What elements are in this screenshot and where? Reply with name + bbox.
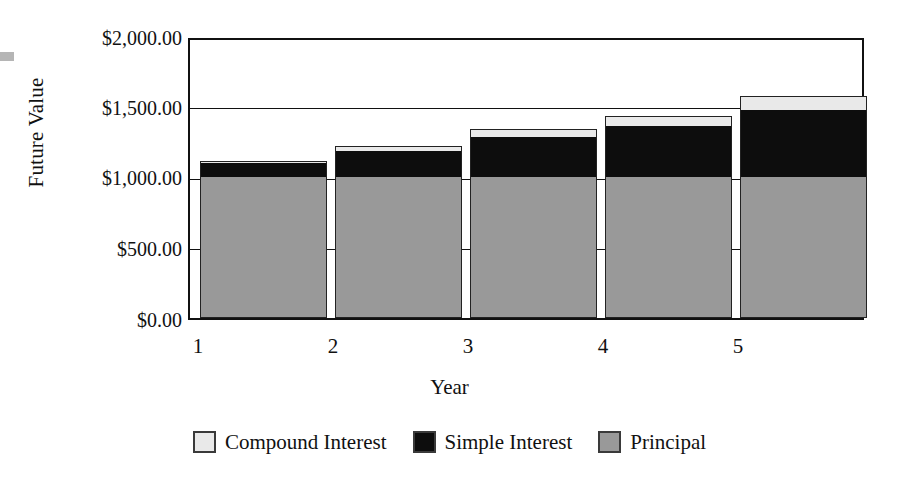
legend-swatch-principal <box>598 431 621 453</box>
bar-segment-simple-interest <box>605 126 732 177</box>
bar-segment-simple-interest <box>470 137 597 177</box>
bar-year-3[interactable] <box>470 129 597 318</box>
chart-legend: Compound Interest Simple Interest Princi… <box>0 427 899 457</box>
legend-swatch-compound-interest <box>193 431 216 453</box>
chart-container: Future Value $2,000.00 $1,500.00 $1,000.… <box>0 0 899 487</box>
bar-year-5[interactable] <box>740 96 867 318</box>
bar-segment-simple-interest <box>335 151 462 177</box>
bar-segment-compound-interest <box>605 116 732 126</box>
legend-item-compound-interest[interactable]: Compound Interest <box>193 431 387 453</box>
bar-segment-compound-interest <box>335 146 462 151</box>
x-tick-label-3: 3 <box>423 334 513 359</box>
bar-segment-principal <box>200 177 327 318</box>
bar-segment-simple-interest <box>200 163 327 177</box>
scan-artifact <box>0 52 14 61</box>
bar-segment-compound-interest <box>200 161 327 163</box>
bar-segment-principal <box>605 177 732 318</box>
x-tick-label-2: 2 <box>288 334 378 359</box>
legend-label: Compound Interest <box>225 431 387 453</box>
y-tick-label: $1,500.00 <box>42 98 182 118</box>
bar-segment-principal <box>470 177 597 318</box>
y-tick-label: $1,000.00 <box>42 168 182 188</box>
y-tick-label: $500.00 <box>42 239 182 259</box>
y-axis-tick-labels: $2,000.00 $1,500.00 $1,000.00 $500.00 $0… <box>40 0 182 487</box>
bar-segment-compound-interest <box>470 129 597 137</box>
x-tick-label-4: 4 <box>558 334 648 359</box>
x-tick-label-1: 1 <box>153 334 243 359</box>
y-tick-label: $2,000.00 <box>42 28 182 48</box>
y-tick-label: $0.00 <box>42 310 182 330</box>
bars-layer <box>190 40 862 318</box>
legend-item-principal[interactable]: Principal <box>598 431 706 453</box>
bar-segment-simple-interest <box>740 110 867 177</box>
bar-segment-principal <box>335 177 462 318</box>
legend-label: Principal <box>630 431 706 453</box>
x-axis-title: Year <box>0 375 899 400</box>
bar-segment-principal <box>740 177 867 318</box>
bar-year-1[interactable] <box>200 163 327 318</box>
bar-year-2[interactable] <box>335 146 462 318</box>
legend-item-simple-interest[interactable]: Simple Interest <box>413 431 573 453</box>
legend-label: Simple Interest <box>445 431 573 453</box>
x-tick-label-5: 5 <box>693 334 783 359</box>
bar-year-4[interactable] <box>605 116 732 318</box>
plot-area <box>188 38 864 320</box>
bar-segment-compound-interest <box>740 96 867 110</box>
legend-swatch-simple-interest <box>413 431 436 453</box>
